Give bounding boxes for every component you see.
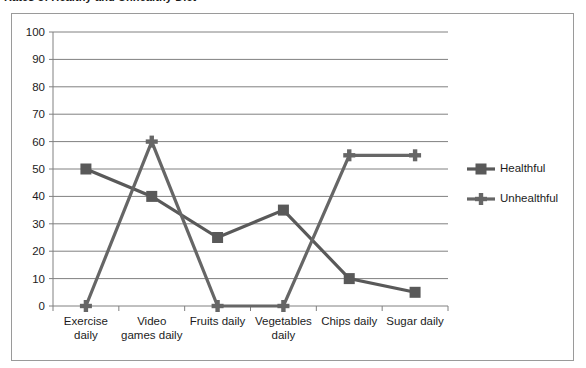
- data-point-healthful: [146, 191, 157, 202]
- data-point-healthful: [344, 273, 355, 284]
- x-axis-label: Vegetables: [255, 315, 312, 327]
- chart-legend: HealthfulUnhealthful: [467, 162, 558, 205]
- chart-title-strip: Rates of Healthy and Unhealthy Diet: [0, 0, 586, 9]
- x-axis-label: daily: [272, 329, 296, 341]
- data-point-healthful: [80, 164, 91, 175]
- data-point-unhealthful: [277, 300, 289, 312]
- gridlines: [53, 32, 448, 306]
- y-axis-tick-label: 60: [32, 136, 45, 148]
- data-point-healthful: [212, 232, 223, 243]
- x-axis-labels: ExercisedailyVideogames dailyFruits dail…: [64, 315, 444, 341]
- chart-frame: 0102030405060708090100 ExercisedailyVide…: [11, 13, 574, 361]
- series-line-healthful: [86, 169, 415, 292]
- y-axis-tick-label: 40: [32, 190, 45, 202]
- y-axis-tick-label: 100: [26, 26, 45, 38]
- y-axis-tick-label: 50: [32, 163, 45, 175]
- data-point-unhealthful: [146, 136, 158, 148]
- legend-label: Unhealthful: [500, 192, 558, 204]
- y-axis-tick-label: 0: [39, 300, 45, 312]
- x-axis-label: Chips daily: [321, 315, 377, 327]
- y-axis-tick-label: 20: [32, 245, 45, 257]
- data-point-healthful: [278, 205, 289, 216]
- data-point-unhealthful: [409, 149, 421, 161]
- legend-label: Healthful: [500, 162, 545, 174]
- legend-marker-square: [476, 164, 487, 175]
- y-axis-tick-label: 80: [32, 81, 45, 93]
- x-axis-label: Exercise: [64, 315, 108, 327]
- y-axis: [49, 32, 53, 306]
- x-axis-label: Fruits daily: [190, 315, 246, 327]
- x-axis-label: games daily: [121, 329, 183, 341]
- y-axis-tick-label: 70: [32, 108, 45, 120]
- data-point-unhealthful: [212, 300, 224, 312]
- data-point-healthful: [410, 287, 421, 298]
- data-point-unhealthful: [80, 300, 92, 312]
- y-axis-tick-label: 90: [32, 53, 45, 65]
- y-axis-tick-label: 30: [32, 218, 45, 230]
- legend-marker-cross: [475, 193, 487, 205]
- x-axis-label: daily: [74, 329, 98, 341]
- x-axis-label: Video: [137, 315, 166, 327]
- y-axis-tick-label: 10: [32, 273, 45, 285]
- x-axis-label: Sugar daily: [386, 315, 444, 327]
- data-point-unhealthful: [343, 149, 355, 161]
- y-axis-labels: 0102030405060708090100: [26, 26, 45, 312]
- page-title: Rates of Healthy and Unhealthy Diet: [4, 0, 196, 3]
- line-chart: 0102030405060708090100 ExercisedailyVide…: [12, 14, 573, 360]
